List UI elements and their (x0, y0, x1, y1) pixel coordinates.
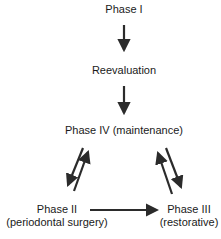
node-phase3-subtitle: (restorative) (158, 216, 220, 229)
arrow-phase2-to-phase4 (74, 152, 88, 191)
node-phase1: Phase I (94, 3, 154, 16)
node-phase2-subtitle: (periodontal surgery) (6, 216, 108, 229)
node-reevaluation: Reevaluation (84, 64, 164, 77)
arrow-phase4-to-phase2 (68, 148, 83, 185)
node-phase3: Phase III (restorative) (158, 203, 220, 229)
node-phase2-title: Phase II (6, 203, 108, 216)
node-phase2: Phase II (periodontal surgery) (6, 203, 108, 229)
node-phase4: Phase IV (maintenance) (64, 124, 184, 137)
node-phase3-title: Phase III (158, 203, 220, 216)
